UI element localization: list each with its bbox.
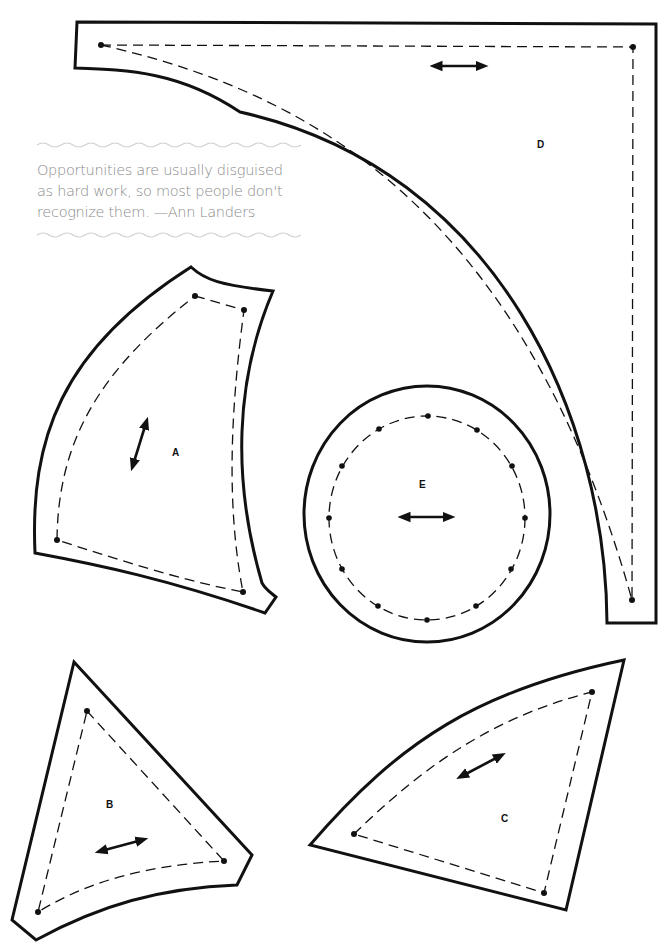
piece-c-cut-line — [310, 660, 624, 910]
piece-d-label: D — [537, 139, 544, 150]
corner-dot — [35, 909, 41, 915]
pattern-piece-c: C — [310, 660, 624, 910]
corner-dot — [589, 689, 595, 695]
corner-dot — [541, 890, 547, 896]
piece-e-label: E — [419, 479, 426, 490]
pattern-piece-e: E — [304, 386, 550, 642]
piece-b-cut-line — [12, 662, 252, 940]
corner-dot — [630, 44, 636, 50]
piece-b-label: B — [106, 799, 113, 810]
pattern-piece-a: A — [34, 267, 276, 613]
corner-dot — [221, 858, 227, 864]
quote-text: Opportunities are usually disguised as h… — [37, 149, 307, 231]
piece-a-label: A — [172, 447, 179, 458]
corner-dot — [192, 293, 198, 299]
corner-dot — [629, 597, 635, 603]
piece-e-cut-line — [304, 386, 550, 642]
corner-dot — [240, 589, 246, 595]
corner-dot — [351, 831, 357, 837]
quote-line: as hard work, so most people don't — [37, 181, 307, 202]
quote-line: Opportunities are usually disguised — [37, 160, 307, 181]
corner-dot — [98, 42, 104, 48]
piece-a-cut-line — [34, 267, 276, 613]
corner-dot — [84, 708, 90, 714]
quote-line: recognize them. —Ann Landers — [37, 202, 307, 223]
corner-dot — [54, 537, 60, 543]
pattern-piece-b: B — [12, 662, 252, 940]
squiggle-divider-bottom — [37, 231, 307, 239]
corner-dot — [241, 307, 247, 313]
piece-c-label: C — [501, 813, 508, 824]
quote-block: Opportunities are usually disguised as h… — [37, 141, 307, 239]
squiggle-divider-top — [37, 141, 307, 149]
